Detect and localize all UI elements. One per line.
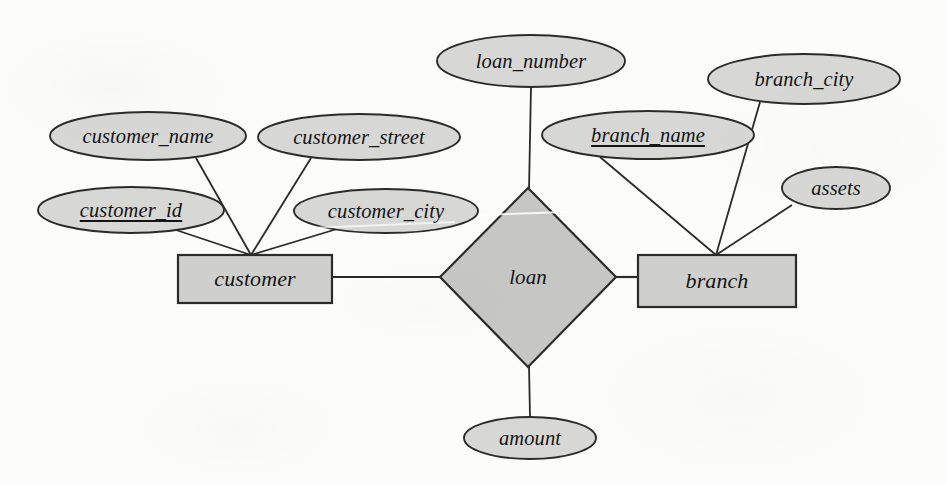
attribute-customer-name-ellipse[interactable] <box>50 112 246 160</box>
attribute-customer-city-ellipse[interactable] <box>294 189 478 233</box>
entity-customer[interactable] <box>178 255 332 303</box>
attribute-customer-id-ellipse[interactable] <box>38 187 224 233</box>
attribute-branch-city-ellipse[interactable] <box>708 54 900 104</box>
connector-branch-name <box>600 157 716 255</box>
entity-branch-box <box>638 255 796 307</box>
attribute-loan-number-ellipse[interactable] <box>437 35 625 87</box>
er-diagram-page: customer_name customer_id customer_stree… <box>0 0 946 485</box>
connector-loan-number <box>529 87 531 190</box>
attribute-branch-name-ellipse[interactable] <box>542 111 754 159</box>
er-diagram-canvas <box>0 0 946 485</box>
entity-customer-box <box>178 255 332 303</box>
attribute-customer-street-ellipse[interactable] <box>258 114 460 160</box>
connector-amount <box>529 365 530 417</box>
attribute-amount-ellipse[interactable] <box>464 417 596 459</box>
entity-branch[interactable] <box>638 255 796 307</box>
attribute-assets-ellipse[interactable] <box>782 167 890 209</box>
